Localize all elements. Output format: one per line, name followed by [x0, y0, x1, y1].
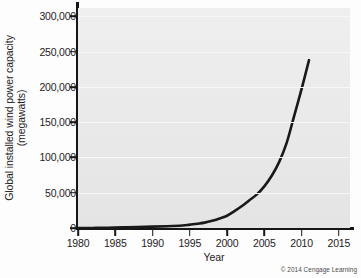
- x-tick-label: 2000: [216, 237, 239, 249]
- x-tick-label: 1985: [104, 237, 127, 249]
- wind-power-capacity-chart: Global installed wind power capacity (me…: [0, 0, 361, 278]
- x-tick-mark: [301, 229, 303, 236]
- y-tick-mark: [70, 16, 77, 18]
- gridline: [78, 87, 350, 88]
- x-tick-label: 1980: [67, 237, 90, 249]
- x-tick-label: 2010: [290, 237, 313, 249]
- x-tick-mark: [264, 229, 266, 236]
- gridline: [78, 193, 350, 194]
- data-series-line: [78, 8, 350, 228]
- x-tick-mark: [114, 229, 116, 236]
- copyright-credit: © 2014 Cengage Learning: [281, 266, 357, 273]
- x-tick-label: 2015: [328, 237, 351, 249]
- gridline: [78, 16, 350, 17]
- y-tick-mark: [70, 157, 77, 159]
- y-tick-mark: [70, 51, 77, 53]
- x-tick-mark: [77, 229, 79, 236]
- x-tick-mark: [189, 229, 191, 236]
- x-tick-label: 2005: [253, 237, 276, 249]
- gridline: [78, 157, 350, 158]
- y-tick-mark: [70, 227, 77, 229]
- gridline: [78, 52, 350, 53]
- y-axis-title-line1: Global installed wind power capacity: [3, 35, 15, 201]
- x-tick-mark: [226, 229, 228, 236]
- y-tick-mark: [70, 86, 77, 88]
- x-tick-mark: [152, 229, 154, 236]
- x-tick-mark: [338, 229, 340, 236]
- x-axis-title: Year: [78, 251, 350, 263]
- x-tick-label: 1995: [178, 237, 201, 249]
- gridline: [78, 122, 350, 123]
- y-tick-mark: [70, 192, 77, 194]
- y-tick-mark: [70, 121, 77, 123]
- x-tick-label: 1990: [141, 237, 164, 249]
- plot-area: [78, 8, 350, 228]
